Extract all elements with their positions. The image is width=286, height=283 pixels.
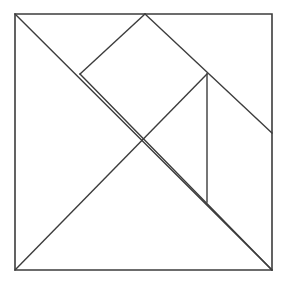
tangram-figure — [0, 0, 286, 283]
tangram-canvas — [0, 0, 286, 283]
